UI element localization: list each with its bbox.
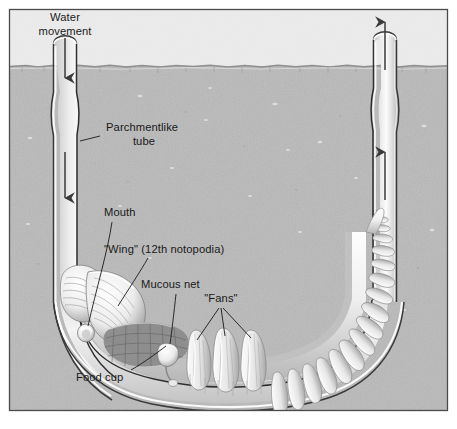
label-parchmentlike-tube-line1: Parchmentlike bbox=[106, 121, 178, 133]
label-mucous-net: Mucous net bbox=[141, 278, 201, 290]
label-water-movement-line1: Water bbox=[50, 11, 80, 23]
label-wing: "Wing" (12th notopodia) bbox=[104, 243, 224, 255]
label-mouth: Mouth bbox=[104, 206, 136, 218]
mouth-inner bbox=[82, 329, 90, 338]
label-food-cup: Food cup bbox=[76, 371, 123, 383]
illustration-figure: Water movement Parchmentlike tube Mouth … bbox=[0, 0, 457, 429]
label-fans: "Fans" bbox=[204, 292, 237, 304]
food-cup-base bbox=[169, 380, 178, 387]
label-parchmentlike-tube-line2: tube bbox=[133, 135, 155, 147]
label-water-movement-line2: movement bbox=[38, 25, 92, 37]
